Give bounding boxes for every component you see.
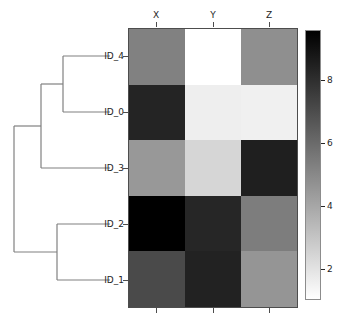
colorbar-label-8: 8 <box>327 75 333 85</box>
heatmap-cell-id-0-z <box>241 85 297 141</box>
heatmap-cell-id-3-z <box>241 140 297 196</box>
heatmap-cell-id-2-z <box>241 196 297 252</box>
colorbar-tick-8 <box>321 80 325 81</box>
heatmap-cell-id-2-y <box>185 196 241 252</box>
colorbar-tick-2 <box>321 269 325 270</box>
column-tick-x <box>156 22 157 27</box>
column-label-x: X <box>153 10 159 20</box>
heatmap-panel <box>128 28 298 308</box>
colorbar: 8 6 4 2 <box>305 30 321 300</box>
row-label-axis: ID_4 ID_0 ID_3 ID_2 ID_1 <box>88 28 124 308</box>
colorbar-label-6: 6 <box>327 138 333 148</box>
heatmap-cell-id-2-x <box>129 196 185 252</box>
column-label-z: Z <box>266 10 272 20</box>
bottom-tick-z <box>269 308 270 313</box>
row-label-id-0: ID_0 <box>104 107 124 117</box>
figure-canvas: ID_4 ID_0 ID_3 ID_2 ID_1 X Y Z <box>0 0 345 320</box>
colorbar-label-4: 4 <box>327 201 333 211</box>
heatmap-cell-id-1-z <box>241 251 297 307</box>
colorbar-tick-4 <box>321 206 325 207</box>
column-tick-y <box>213 22 214 27</box>
bottom-tick-x <box>156 308 157 313</box>
row-label-id-2: ID_2 <box>104 219 124 229</box>
heatmap-cell-id-3-y <box>185 140 241 196</box>
colorbar-gradient <box>305 30 321 300</box>
colorbar-tick-6 <box>321 143 325 144</box>
heatmap-cell-id-4-y <box>185 29 241 85</box>
row-label-id-4: ID_4 <box>104 51 124 61</box>
heatmap-cell-id-0-x <box>129 85 185 141</box>
colorbar-label-2: 2 <box>327 264 333 274</box>
column-label-y: Y <box>210 10 216 20</box>
heatmap-cell-id-4-z <box>241 29 297 85</box>
heatmap-cell-id-4-x <box>129 29 185 85</box>
bottom-tick-y <box>213 308 214 313</box>
row-label-id-1: ID_1 <box>104 275 124 285</box>
heatmap-grid <box>129 29 297 307</box>
row-label-id-3: ID_3 <box>104 163 124 173</box>
heatmap-cell-id-1-x <box>129 251 185 307</box>
heatmap-cell-id-1-y <box>185 251 241 307</box>
column-tick-z <box>269 22 270 27</box>
heatmap-cell-id-0-y <box>185 85 241 141</box>
heatmap-cell-id-3-x <box>129 140 185 196</box>
